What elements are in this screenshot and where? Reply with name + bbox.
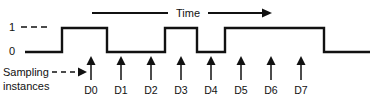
sample-label-d4: D4 — [204, 84, 218, 96]
sampling-instances-pointer-arrow-icon — [52, 68, 87, 77]
sample-label-d7: D7 — [294, 84, 308, 96]
sampling-arrow-d6 — [267, 56, 276, 80]
time-arrowhead-icon — [262, 9, 272, 18]
sampling-arrow-d4 — [207, 56, 216, 80]
sample-label-d6: D6 — [264, 84, 278, 96]
sampling-arrow-d5 — [237, 56, 246, 80]
sampling-arrows-group — [87, 56, 306, 80]
sample-label-d1: D1 — [114, 84, 128, 96]
sampling-arrow-d1 — [117, 56, 126, 80]
sampling-arrow-d3 — [177, 56, 186, 80]
sampling-instances-label-line1: Sampling — [3, 66, 49, 78]
digital-waveform-trace — [25, 28, 370, 52]
time-axis-label: Time — [176, 7, 200, 19]
sampling-arrow-d2 — [147, 56, 156, 80]
sample-label-d3: D3 — [174, 84, 188, 96]
sampled-digital-waveform-figure: Time 1 0 — [0, 0, 374, 100]
sample-label-d5: D5 — [234, 84, 248, 96]
sampling-arrow-d0 — [87, 56, 96, 80]
sampling-arrow-d7 — [297, 56, 306, 80]
waveform-diagram: Time 1 0 — [0, 0, 374, 100]
time-axis-arrow: Time — [92, 7, 272, 19]
axis-label-high: 1 — [9, 21, 15, 33]
sample-label-d0: D0 — [84, 84, 98, 96]
sampling-instances-label-line2: instances — [3, 80, 50, 92]
sample-label-d2: D2 — [144, 84, 158, 96]
axis-label-low: 0 — [9, 45, 15, 57]
